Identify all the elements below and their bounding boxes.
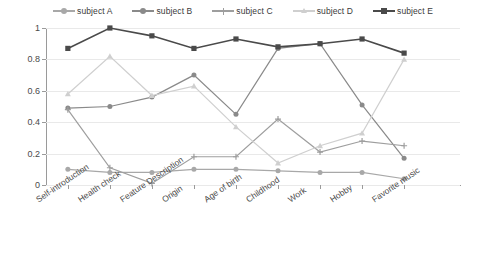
series-line-subject-d	[68, 56, 404, 163]
y-axis-tick-label: 0.2	[18, 149, 40, 159]
legend-item-subject-d[interactable]: subject D	[293, 6, 353, 16]
series-layer	[46, 28, 460, 185]
legend-label: subject E	[397, 6, 433, 16]
legend-label: subject A	[77, 6, 112, 16]
data-point-marker	[402, 156, 407, 161]
x-tick-mark	[68, 185, 69, 189]
data-point-marker	[191, 154, 197, 160]
x-tick-mark	[110, 185, 111, 189]
legend-label: subject B	[156, 6, 192, 16]
data-point-marker	[65, 46, 70, 51]
line-chart: subject Asubject Bsubject Csubject Dsubj…	[0, 0, 486, 267]
data-point-marker	[149, 33, 154, 38]
legend-item-subject-a[interactable]: subject A	[53, 6, 112, 16]
x-tick-mark	[362, 185, 363, 189]
legend-swatch-icon	[373, 6, 395, 16]
y-axis-tick-label: 0	[18, 180, 40, 190]
x-tick-mark	[194, 185, 195, 189]
data-point-marker	[359, 138, 365, 144]
x-tick-mark	[236, 185, 237, 189]
data-point-marker	[276, 168, 281, 173]
data-point-marker	[401, 56, 407, 61]
legend-swatch-icon	[53, 6, 75, 16]
data-point-marker	[191, 73, 196, 78]
data-point-marker	[359, 36, 364, 41]
data-point-marker	[191, 167, 196, 172]
data-point-marker	[360, 170, 365, 175]
data-point-marker	[191, 83, 197, 88]
chart-legend: subject Asubject Bsubject Csubject Dsubj…	[0, 6, 486, 16]
data-point-marker	[107, 53, 113, 58]
data-point-marker	[401, 143, 407, 149]
legend-swatch-icon	[132, 6, 154, 16]
x-axis-tick-label: Origin	[160, 183, 184, 204]
x-tick-mark	[320, 185, 321, 189]
legend-item-subject-e[interactable]: subject E	[373, 6, 433, 16]
legend-label: subject C	[236, 6, 272, 16]
legend-swatch-icon	[212, 6, 234, 16]
data-point-marker	[317, 41, 322, 46]
data-point-marker	[401, 51, 406, 56]
data-point-marker	[107, 104, 112, 109]
legend-label: subject D	[317, 6, 353, 16]
x-axis-tick-label: Work	[286, 185, 308, 204]
data-point-marker	[233, 36, 238, 41]
y-tick-mark	[42, 185, 46, 186]
data-point-marker	[318, 170, 323, 175]
series-line-subject-b	[68, 44, 404, 159]
x-tick-mark	[278, 185, 279, 189]
legend-swatch-icon	[293, 6, 315, 16]
data-point-marker	[359, 130, 365, 135]
data-point-marker	[233, 112, 238, 117]
legend-item-subject-b[interactable]: subject B	[132, 6, 192, 16]
y-axis-tick-label: 0.6	[18, 86, 40, 96]
y-axis-tick-label: 0.8	[18, 54, 40, 64]
plot-area	[46, 28, 460, 185]
x-tick-mark	[152, 185, 153, 189]
data-point-marker	[107, 25, 112, 30]
x-tick-mark	[404, 185, 405, 189]
data-point-marker	[360, 102, 365, 107]
y-axis-tick-label: 0.4	[18, 117, 40, 127]
data-point-marker	[191, 46, 196, 51]
legend-item-subject-c[interactable]: subject C	[212, 6, 272, 16]
data-point-marker	[275, 44, 280, 49]
y-axis-tick-label: 1	[18, 23, 40, 33]
